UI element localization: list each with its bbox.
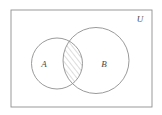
set-a-label: A bbox=[40, 59, 47, 69]
venn-diagram-canvas: A B U bbox=[0, 0, 162, 115]
universe-label: U bbox=[137, 14, 144, 24]
venn-diagram-figure: A B U bbox=[0, 0, 162, 115]
set-b-label: B bbox=[101, 59, 107, 69]
